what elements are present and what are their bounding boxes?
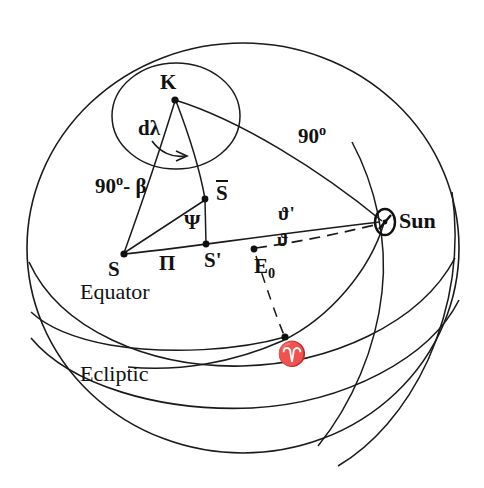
label-90-degrees: 90o [298, 123, 326, 147]
hour-circle-through-sun [318, 142, 383, 446]
label-s-prime: S' [204, 250, 222, 271]
label-90-degrees-num: 90 [298, 124, 319, 148]
label-aries-symbol: ♈ [277, 342, 307, 366]
equator-arc [29, 258, 455, 366]
figure-canvas: K dλ 90o- β 90o S Ψ S Π S' ϑ' ϑ E0 Sun E… [0, 0, 484, 488]
segment-Sbar-to-Sprime [205, 200, 206, 244]
label-sun: Sun [399, 210, 436, 232]
label-e-zero-letter: E [254, 254, 268, 278]
label-s-bar: S [216, 180, 228, 204]
label-90-minus-beta-num: 90 [95, 174, 116, 198]
sphere-outline [27, 43, 459, 453]
label-s-bar-text: S [216, 180, 228, 204]
point-Sprime-marker [203, 241, 210, 248]
point-aries-marker [281, 333, 288, 340]
label-e-zero: E0 [254, 256, 275, 280]
label-90-degrees-symbol: o [319, 122, 326, 138]
label-90-minus-beta-rest: - β [123, 174, 146, 198]
point-E0-marker [251, 246, 258, 253]
label-pi: Π [159, 253, 175, 274]
label-ecliptic: Ecliptic [80, 363, 148, 385]
label-theta: ϑ [277, 230, 288, 249]
celestial-sphere-svg [0, 0, 484, 488]
label-ecliptic-pole: K [160, 72, 176, 93]
point-Sbar-marker [202, 196, 209, 203]
label-equator: Equator [80, 281, 150, 303]
label-star-s: S [108, 259, 120, 280]
point-S-marker [120, 250, 127, 257]
arc-K-to-Sbar [176, 101, 205, 199]
d-lambda-arrow [152, 141, 185, 156]
label-d-lambda: dλ [138, 118, 160, 139]
dashed-E0-to-Sun [256, 224, 379, 248]
point-K-marker [171, 96, 178, 103]
label-90-minus-beta: 90o- β [95, 173, 146, 197]
hour-circle-right [338, 192, 455, 466]
label-theta-prime: ϑ' [278, 204, 295, 223]
label-psi: Ψ [184, 212, 200, 233]
colure-through-aries [31, 312, 285, 350]
label-e-zero-subscript: 0 [268, 265, 275, 281]
